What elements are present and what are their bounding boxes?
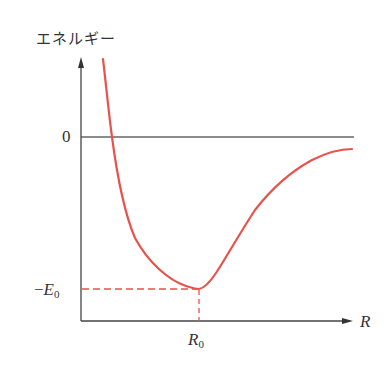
min-energy-label: −E0 xyxy=(34,281,59,300)
y-axis-label: エネルギー xyxy=(36,32,116,47)
position-subscript: 0 xyxy=(198,338,204,350)
potential-curve xyxy=(103,59,352,289)
position-symbol: R xyxy=(188,330,198,349)
zero-label: 0 xyxy=(62,128,71,145)
energy-subscript: 0 xyxy=(54,288,60,300)
energy-symbol: E xyxy=(44,280,54,299)
x-axis-label: R xyxy=(360,313,370,330)
min-position-label: R0 xyxy=(188,331,204,350)
minus-sign: − xyxy=(34,280,44,299)
x-axis-arrow-icon xyxy=(342,318,353,324)
y-axis-arrow-icon xyxy=(78,57,84,68)
energy-diagram xyxy=(0,0,387,374)
